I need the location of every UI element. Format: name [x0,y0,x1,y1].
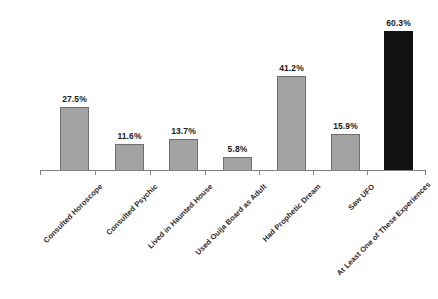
bar-used-ouija-board-as-adult [223,157,252,171]
plot-area: 27.5% 11.6% 13.7% 5.8% 41.2% 15.9% 60.3%… [0,0,438,299]
x-axis-label-at-least-one-of-these-experiences: At Least One of These Experiences [335,182,430,277]
x-axis-tick [259,171,260,175]
bar-value-consulted-horoscope: 27.5% [49,94,100,104]
bar-consulted-psychic [115,144,144,171]
x-axis-tick [367,171,368,175]
bar-lived-in-haunted-house [169,139,198,171]
bar-value-lived-in-haunted-house: 13.7% [158,126,209,136]
bar-had-prophetic-dream [277,76,306,171]
x-axis-tick [150,171,151,175]
bar-at-least-one-of-these-experiences [384,31,413,171]
bar-chart: 27.5% 11.6% 13.7% 5.8% 41.2% 15.9% 60.3%… [0,0,438,299]
bar-value-had-prophetic-dream: 41.2% [266,63,317,73]
x-axis-end-cap [425,170,426,175]
bar-value-saw-ufo: 15.9% [320,121,371,131]
x-axis-tick [205,171,206,175]
bar-value-consulted-psychic: 11.6% [104,131,155,141]
x-axis-tick [313,171,314,175]
x-axis-start-cap [40,170,41,175]
bar-value-used-ouija-board-as-adult: 5.8% [212,144,263,154]
bar-consulted-horoscope [60,107,89,171]
x-axis-tick [95,171,96,175]
bar-value-at-least-one-of-these-experiences: 60.3% [373,18,424,28]
bar-saw-ufo [331,134,360,171]
